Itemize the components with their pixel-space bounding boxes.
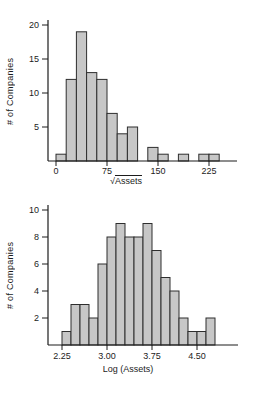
- histogram-bar: [206, 318, 215, 345]
- histogram-bar: [89, 318, 98, 345]
- histogram-bar: [107, 237, 116, 345]
- histogram-bar: [143, 224, 152, 346]
- x-tick-label: 150: [150, 166, 165, 176]
- histogram-bar: [199, 154, 209, 161]
- x-axis-title: √Assets: [48, 176, 204, 186]
- histogram-bar: [170, 291, 179, 345]
- histogram-bar: [179, 318, 188, 345]
- histogram-bar: [80, 305, 89, 346]
- histogram-bar: [56, 154, 66, 161]
- x-tick-label: 225: [201, 166, 216, 176]
- y-tick-label: 6: [34, 259, 39, 269]
- histogram-bar: [71, 305, 80, 346]
- histogram-bar: [107, 113, 117, 161]
- y-tick-label: 4: [34, 286, 39, 296]
- y-tick-label: 5: [34, 122, 39, 132]
- histogram-bar: [97, 79, 107, 161]
- histogram-bar: [152, 251, 161, 346]
- x-tick-label: 2.25: [53, 351, 71, 361]
- sqrt-assets-histogram-plot: 0751502255101520: [0, 0, 255, 199]
- x-tick-label: 0: [53, 166, 58, 176]
- y-axis-title: # of Companies: [5, 201, 15, 350]
- y-tick-label: 8: [34, 232, 39, 242]
- textbook-histogram-figure: 0751502255101520 # of Companies √Assets …: [0, 0, 255, 398]
- histogram-bar: [161, 278, 170, 346]
- x-tick-label: 4.50: [188, 351, 206, 361]
- x-axis-title-text: Log (Assets): [103, 364, 154, 374]
- y-tick-label: 10: [29, 88, 39, 98]
- histogram-bar: [62, 332, 71, 346]
- x-tick-label: 3.75: [143, 351, 161, 361]
- x-tick-label: 75: [102, 166, 112, 176]
- histogram-bar: [76, 32, 86, 161]
- histogram-bar: [134, 237, 143, 345]
- y-axis-title: # of Companies: [5, 18, 15, 165]
- x-tick-label: 3.00: [98, 351, 116, 361]
- y-tick-label: 15: [29, 54, 39, 64]
- sqrt-assets-histogram: 0751502255101520 # of Companies √Assets: [0, 0, 255, 199]
- histogram-bar: [125, 237, 134, 345]
- histogram-bar: [66, 79, 76, 161]
- histogram-bar: [209, 154, 219, 161]
- histogram-bar: [158, 154, 168, 161]
- histogram-bar: [98, 264, 107, 345]
- histogram-bar: [188, 332, 197, 346]
- histogram-bar: [87, 73, 97, 161]
- y-tick-label: 10: [29, 205, 39, 215]
- histogram-bar: [117, 134, 127, 161]
- histogram-bar: [148, 147, 158, 161]
- histogram-bar: [197, 332, 206, 346]
- x-axis-title: Log (Assets): [48, 364, 208, 374]
- x-axis-title-text: Assets: [115, 176, 142, 186]
- y-tick-label: 2: [34, 313, 39, 323]
- histogram-bar: [178, 154, 188, 161]
- histogram-bar: [116, 224, 125, 346]
- histogram-bar: [127, 127, 137, 161]
- log-assets-histogram: 2.253.003.754.50246810 # of Companies Lo…: [0, 199, 255, 398]
- y-tick-label: 20: [29, 20, 39, 30]
